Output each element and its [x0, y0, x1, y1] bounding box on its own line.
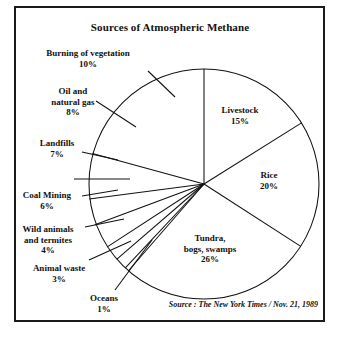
label-livestock-name: Livestock — [222, 105, 259, 115]
label-tundra-pct: 26% — [166, 254, 254, 265]
label-coal-pct: 6% — [12, 201, 82, 212]
label-wild-animals-and-termites: Wild animals and termites 4% — [10, 224, 86, 256]
label-landfills: Landfills 7% — [24, 138, 90, 159]
label-tundra-name-line2: bogs, swamps — [166, 244, 254, 255]
label-oilgas-pct: 8% — [34, 107, 112, 118]
label-animal-waste: Animal waste 3% — [20, 263, 98, 284]
leader-line-coal — [82, 190, 118, 196]
label-burning-of-vegetation: Burning of vegetation 10% — [28, 48, 148, 69]
label-rice-pct: 20% — [245, 181, 293, 192]
label-burning-pct: 10% — [28, 59, 148, 70]
label-oilgas-name-line1: Oil and — [59, 86, 88, 96]
label-wild-pct: 4% — [10, 245, 86, 256]
label-rice: Rice 20% — [245, 170, 293, 191]
label-animalwaste-name: Animal waste — [33, 263, 85, 273]
label-landfills-name: Landfills — [40, 138, 75, 148]
label-oceans-name: Oceans — [90, 293, 118, 303]
label-wild-name-line1: Wild animals — [22, 224, 73, 234]
slice-divider-75 — [95, 184, 204, 225]
label-livestock: Livestock 15% — [207, 105, 273, 126]
label-tundra-bogs-swamps: Tundra, bogs, swamps 26% — [166, 233, 254, 265]
chart-page: Sources of Atmospheric Methane — [0, 0, 340, 340]
label-livestock-pct: 15% — [207, 116, 273, 127]
label-wild-name-line2: and termites — [10, 235, 86, 246]
label-rice-name: Rice — [261, 170, 278, 180]
label-oceans: Oceans 1% — [75, 293, 133, 314]
source-citation: Source : The New York Times / Nov. 21, 1… — [150, 300, 318, 309]
label-coal-name: Coal Mining — [23, 190, 71, 200]
label-oceans-pct: 1% — [75, 304, 133, 315]
leader-line-wild — [85, 219, 124, 227]
label-tundra-name-line1: Tundra, — [195, 233, 226, 243]
label-oilgas-name-line2: natural gas — [34, 97, 112, 108]
label-landfills-pct: 7% — [24, 149, 90, 160]
label-coal-mining: Coal Mining 6% — [12, 190, 82, 211]
label-oil-and-natural-gas: Oil and natural gas 8% — [34, 86, 112, 118]
label-burning-name: Burning of vegetation — [46, 48, 130, 58]
leader-line-oceans — [115, 240, 152, 290]
leader-line-animalwaste — [89, 241, 131, 260]
leader-line-burning — [148, 71, 175, 97]
label-animalwaste-pct: 3% — [20, 274, 98, 285]
